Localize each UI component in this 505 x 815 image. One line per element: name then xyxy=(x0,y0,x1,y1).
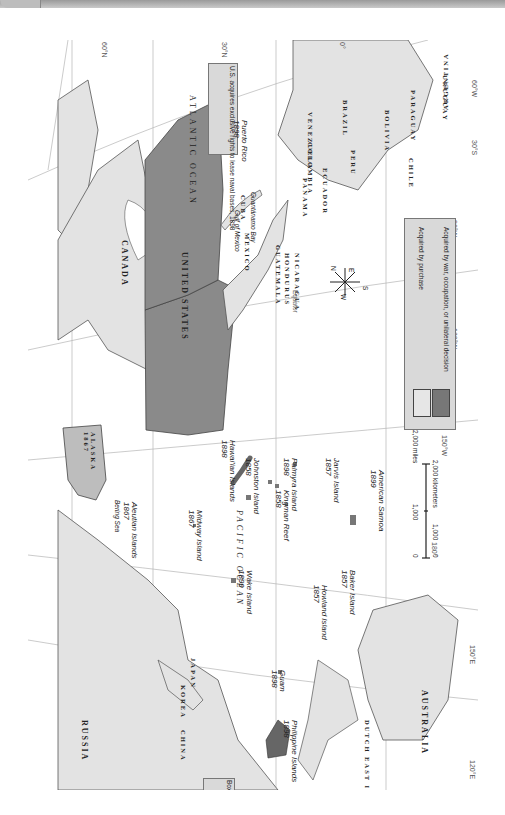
label-midway: Midway Island1867 xyxy=(186,510,203,561)
compass-s: S xyxy=(361,286,368,290)
label-howland: Howland Island1857 xyxy=(311,585,328,640)
compass-n: N xyxy=(329,266,336,271)
label-guantanamo: Guantánamo Bay xyxy=(249,192,256,243)
coord-30s: 30°S xyxy=(471,140,478,155)
label-hawaii: Hawai'ian Islands1898 xyxy=(219,440,236,502)
label-chile: CHILE xyxy=(407,158,414,189)
label-korea: KOREA xyxy=(179,685,186,719)
label-atlantic-ocean: ATLANTIC OCEAN xyxy=(188,95,196,206)
coord-0: 0° xyxy=(339,42,346,49)
coord-30n: 30°N xyxy=(221,42,228,58)
label-alaska: ALASKA1867 xyxy=(82,432,96,471)
label-honduras: HONDURUS xyxy=(283,253,290,306)
label-baker: Baker Island1857 xyxy=(339,570,356,614)
label-australia: AUSTRALIA xyxy=(420,690,428,755)
label-ecuador: ECUADOR xyxy=(321,168,328,215)
boxer-text: Boxer uprising 1900 xyxy=(225,780,232,790)
label-paraguay: PARAGUAY xyxy=(409,90,416,142)
coord-180: 180° xyxy=(431,542,438,556)
label-uruguay: URUGUAY xyxy=(441,75,448,122)
label-dutch-east-indies: DUTCH EAST INDIES xyxy=(363,720,370,790)
scale-miles-1000: 1,000 xyxy=(411,504,418,520)
label-gulf-of-mexico: Gulf of Mexico xyxy=(233,210,240,252)
scale-miles-2000: 2,000 miles xyxy=(411,430,418,463)
legend-label-purchase: Acquired by purchase xyxy=(417,227,424,290)
label-guatemala: GUATEMALA xyxy=(274,245,281,306)
label-canada: CANADA xyxy=(120,240,128,287)
legend-swatch-purchase xyxy=(413,389,431,417)
asia-shape xyxy=(58,510,278,790)
australia-shape xyxy=(358,595,458,740)
coord-150e: 150°E xyxy=(469,645,476,664)
legend-label-war: Acquired by war, occupation, or unilater… xyxy=(442,227,449,377)
page-header-band xyxy=(0,0,505,8)
label-puerto-rico: Puerto Rico1898 xyxy=(231,120,248,162)
label-peru: PERU xyxy=(349,150,356,176)
legend-swatch-war xyxy=(432,389,450,417)
coord-60w: 60°W xyxy=(471,80,478,97)
label-guam: Guam1898 xyxy=(269,670,286,692)
label-jarvis: Jarvis Island1857 xyxy=(323,458,340,502)
label-wake: Wake Island1899 xyxy=(236,570,253,614)
scale-km-1000: 1,000 xyxy=(431,524,438,540)
compass-w: W xyxy=(339,294,346,300)
scale-miles-0: 0 xyxy=(411,554,418,558)
label-venezuela: VENEZUELA xyxy=(306,112,313,170)
coord-120e: 120°E xyxy=(469,760,476,779)
compass-e: E xyxy=(347,268,354,272)
compass-rose xyxy=(330,268,360,296)
scale-bar xyxy=(422,464,430,558)
label-russia: RUSSIA xyxy=(80,720,88,761)
us-acquisitions-map: U.S. acquires exclusive rights to lease … xyxy=(28,40,478,790)
label-united-states: UNITED STATES xyxy=(180,252,188,341)
label-bering-sea: Bering Sea xyxy=(113,500,120,532)
label-palmyra: Palmyra Island1898 xyxy=(281,458,298,511)
label-equator: Equator xyxy=(291,290,298,313)
label-johnston: Johnston Island1858 xyxy=(243,458,260,514)
coord-150w: 150°W xyxy=(441,435,448,456)
label-american-samoa: American Samoa1899 xyxy=(368,470,385,531)
label-japan: JAPAN xyxy=(189,658,196,689)
label-china: CHINA xyxy=(179,730,186,762)
dutch-east-indies-shape xyxy=(298,660,358,780)
scale-km-2000: 2,000 kilometers xyxy=(431,460,438,508)
boxer-callout: Boxer uprising 1900 xyxy=(203,778,235,790)
label-brazil: BRAZIL xyxy=(341,100,348,137)
coord-60n: 60°N xyxy=(101,42,108,58)
map-legend: Acquired by purchase Acquired by war, oc… xyxy=(404,218,456,430)
label-bolivia: BOLIVIA xyxy=(383,110,390,152)
label-aleutian: Aleutian Islands1867 xyxy=(121,502,138,558)
label-philippines: Philippine Islands1898 xyxy=(281,720,298,782)
